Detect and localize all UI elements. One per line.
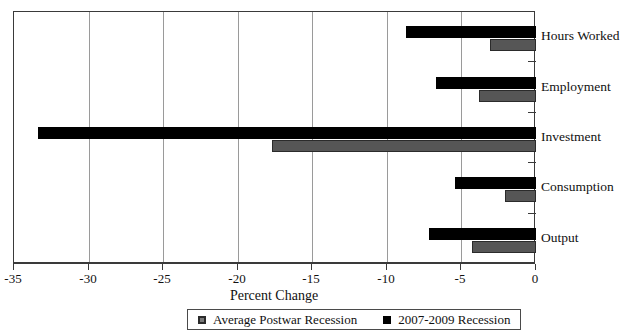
x-tick xyxy=(311,264,312,270)
x-tick-label: -25 xyxy=(153,271,170,286)
x-tick xyxy=(386,264,387,270)
x-tick xyxy=(88,264,89,270)
legend-label: Average Postwar Recession xyxy=(213,313,357,327)
bar-employment-average-postwar xyxy=(479,90,536,102)
x-tick xyxy=(535,264,536,270)
bar-output-2007-2009 xyxy=(429,228,536,240)
legend-swatch-black-icon xyxy=(383,316,391,324)
x-axis-line xyxy=(13,263,535,264)
bar-consumption-2007-2009 xyxy=(455,177,536,189)
bar-hours-worked-average-postwar xyxy=(490,39,536,51)
x-tick-label: -5 xyxy=(455,271,466,286)
category-separator-tick xyxy=(528,112,536,113)
bar-investment-2007-2009 xyxy=(38,127,536,139)
plot-area xyxy=(13,11,535,263)
category-separator-tick xyxy=(528,162,536,163)
x-tick-label: -10 xyxy=(377,271,394,286)
x-tick-label: -20 xyxy=(228,271,245,286)
bar-output-average-postwar xyxy=(472,241,536,253)
x-tick-label: -30 xyxy=(79,271,96,286)
legend-swatch-gray-icon xyxy=(198,316,206,324)
bar-investment-average-postwar xyxy=(272,140,536,152)
bar-consumption-average-postwar xyxy=(505,190,536,202)
x-tick xyxy=(13,264,14,270)
bar-chart: Hours WorkedEmploymentInvestmentConsumpt… xyxy=(0,0,638,335)
x-tick-label: -15 xyxy=(302,271,319,286)
category-label-consumption: Consumption xyxy=(541,180,614,194)
category-label-hours-worked: Hours Worked xyxy=(541,29,620,43)
x-tick xyxy=(460,264,461,270)
legend-item-average-postwar-recession: Average Postwar Recession xyxy=(198,313,357,327)
x-tick-label: -35 xyxy=(4,271,21,286)
x-tick xyxy=(237,264,238,270)
x-axis-title: Percent Change xyxy=(13,288,535,304)
legend-label: 2007-2009 Recession xyxy=(398,313,510,327)
legend-item-2007-2009-recession: 2007-2009 Recession xyxy=(383,313,510,327)
category-label-output: Output xyxy=(541,231,579,245)
category-label-investment: Investment xyxy=(541,130,601,144)
category-separator-tick xyxy=(528,213,536,214)
category-label-employment: Employment xyxy=(541,80,611,94)
bar-employment-2007-2009 xyxy=(436,77,536,89)
chart-legend: Average Postwar Recession 2007-2009 Rece… xyxy=(187,309,521,330)
x-tick-label: 0 xyxy=(532,271,539,286)
category-separator-tick xyxy=(528,61,536,62)
x-tick xyxy=(162,264,163,270)
bar-hours-worked-2007-2009 xyxy=(406,26,536,38)
